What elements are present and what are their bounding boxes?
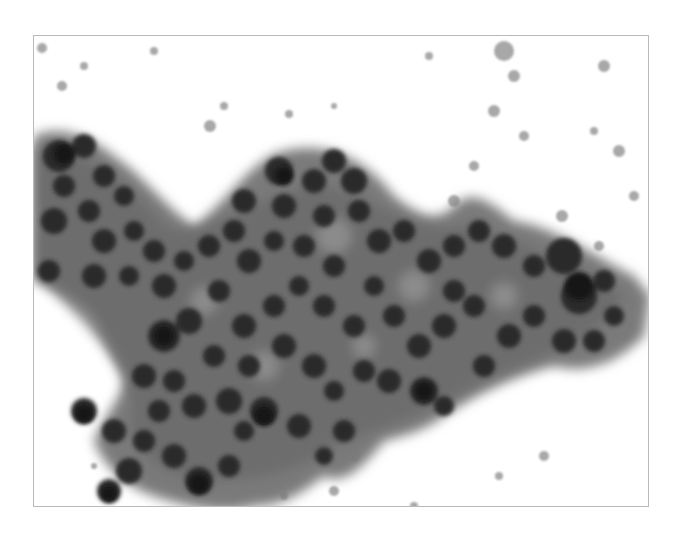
cell-cluster-micrograph xyxy=(34,36,649,507)
micrograph-frame xyxy=(33,35,649,507)
